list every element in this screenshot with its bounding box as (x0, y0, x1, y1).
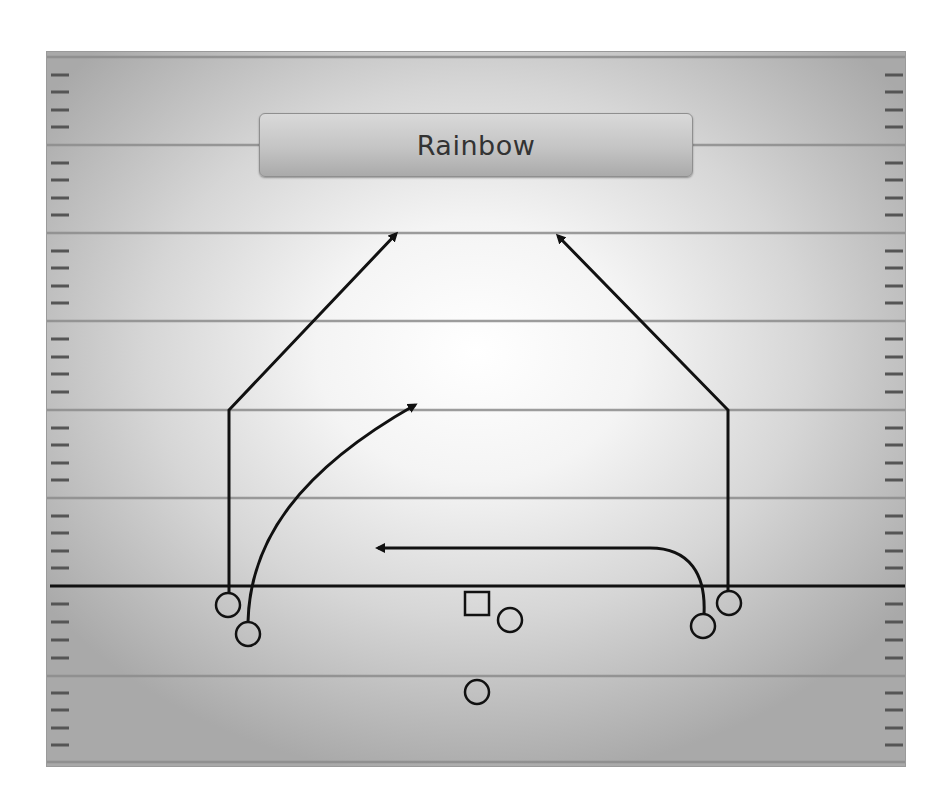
play-diagram: Rainbow (0, 0, 950, 809)
play-title: Rainbow (417, 130, 536, 161)
players (216, 591, 741, 704)
running-back-circle (465, 680, 489, 704)
right-slot-drag-route (378, 548, 704, 614)
center-square (465, 592, 489, 615)
right-post-route (558, 236, 728, 591)
play-title-banner: Rainbow (259, 113, 693, 177)
left-post-route (229, 234, 396, 593)
left-wide-receiver-circle (216, 593, 240, 617)
left-slot-curved-route (248, 405, 415, 622)
routes (229, 234, 728, 622)
back-circle (498, 608, 522, 632)
right-slot-receiver-circle (691, 614, 715, 638)
left-slot-receiver-circle (236, 622, 260, 646)
right-wide-receiver-circle (717, 591, 741, 615)
